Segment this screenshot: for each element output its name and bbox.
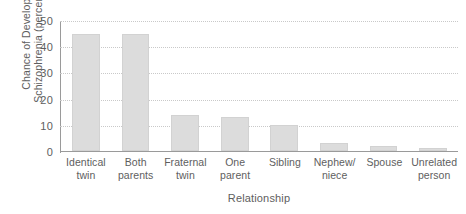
bar-both-parents [122, 34, 150, 151]
bar-fraternal-twin [171, 115, 199, 151]
gridline-0 [60, 152, 458, 153]
x-tick-label-line: Identical [62, 156, 110, 169]
x-tick-label-line: Sibling [261, 156, 309, 169]
bar-slot [408, 21, 458, 151]
x-tick-label-4: Sibling [260, 156, 310, 182]
x-tick-label-line: Unrelated [410, 156, 458, 169]
x-tick-label-line: niece [311, 169, 359, 182]
bar-series [61, 21, 458, 151]
bar-slot [359, 21, 409, 151]
y-tick-label-50: 50 [29, 15, 53, 27]
bar-nephew-niece [320, 143, 348, 151]
y-tick-label-20: 20 [29, 94, 53, 106]
x-tick-label-line: Both [112, 156, 160, 169]
y-tick-label-30: 30 [29, 67, 53, 79]
bar-slot [210, 21, 260, 151]
x-tick-label-line: parents [112, 169, 160, 182]
x-tick-label-1: Bothparents [111, 156, 161, 182]
x-tick-label-line: Fraternal [162, 156, 210, 169]
bar-identical-twin [72, 34, 100, 151]
bar-unrelated-person [419, 148, 447, 151]
x-tick-label-0: Identicaltwin [61, 156, 111, 182]
bar-slot [61, 21, 111, 151]
x-tick-label-2: Fraternaltwin [161, 156, 211, 182]
bar-slot [309, 21, 359, 151]
x-tick-label-line: One [211, 156, 259, 169]
x-tick-label-line: twin [62, 169, 110, 182]
bar-sibling [270, 125, 298, 151]
x-axis-tick-labels: IdenticaltwinBothparentsFraternaltwinOne… [61, 156, 459, 182]
x-tick-label-line: twin [162, 169, 210, 182]
x-tick-label-line: person [410, 169, 458, 182]
y-axis-tick-labels: 01020304050 [27, 0, 53, 214]
bar-slot [160, 21, 210, 151]
x-tick-label-line: parent [211, 169, 259, 182]
y-tick-label-40: 40 [29, 41, 53, 53]
x-tick-label-5: Nephew/niece [310, 156, 360, 182]
y-tick-label-0: 0 [29, 146, 53, 158]
bar-slot [111, 21, 161, 151]
x-tick-label-line: Nephew/ [311, 156, 359, 169]
x-tick-label-line: Spouse [361, 156, 409, 169]
plot-area [60, 21, 458, 152]
y-tick-label-10: 10 [29, 120, 53, 132]
bar-spouse [370, 146, 398, 151]
x-axis-title: Relationship [60, 192, 458, 204]
x-tick-label-7: Unrelatedperson [409, 156, 459, 182]
bar-slot [260, 21, 310, 151]
bar-chart-figure: Chance of Developing Schizophrenia (perc… [0, 0, 466, 214]
x-tick-label-6: Spouse [360, 156, 410, 182]
x-tick-label-3: Oneparent [210, 156, 260, 182]
bar-one-parent [221, 117, 249, 151]
